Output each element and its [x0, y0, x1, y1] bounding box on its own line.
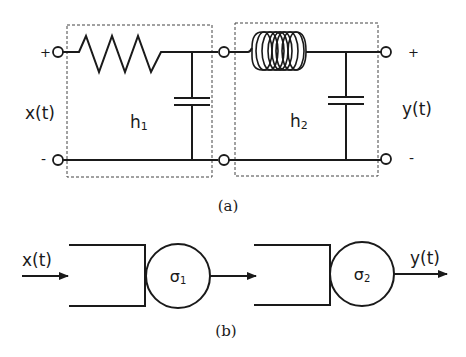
output-minus-terminal [381, 154, 391, 164]
output-plus-terminal [381, 47, 391, 57]
block-2: σ2 [254, 242, 394, 306]
block-1-label: σ1 [170, 267, 187, 286]
inductor-icon [229, 32, 381, 70]
stage1-box [67, 25, 212, 177]
circuit-figure-a: + - x(t) h1 [25, 23, 432, 215]
stage1-label: h1 [130, 112, 148, 133]
block-1: σ1 [69, 244, 210, 308]
input-label: x(t) [25, 103, 55, 123]
input-label-b: x(t) [22, 250, 52, 270]
cascade-diagram: + - x(t) h1 [0, 0, 466, 357]
stage2-label: h2 [290, 111, 308, 132]
middle-bottom-terminal [219, 155, 229, 165]
capacitor-1-icon [174, 52, 210, 160]
output-label: y(t) [402, 99, 432, 119]
block-2-label: σ2 [354, 265, 371, 284]
capacitor-2-icon [328, 52, 364, 160]
output-plus-sign: + [408, 45, 419, 60]
caption-a: (a) [218, 197, 239, 215]
block-figure-b: x(t) σ1 σ2 y(t) (b) [22, 242, 447, 340]
output-minus-sign: - [409, 150, 414, 166]
caption-b: (b) [215, 322, 236, 340]
output-label-b: y(t) [410, 248, 440, 268]
middle-top-terminal [219, 47, 229, 57]
input-minus-terminal [53, 155, 63, 165]
input-minus-sign: - [41, 151, 46, 167]
input-plus-terminal [53, 47, 63, 57]
input-plus-sign: + [40, 45, 51, 60]
resistor-icon [63, 36, 218, 72]
